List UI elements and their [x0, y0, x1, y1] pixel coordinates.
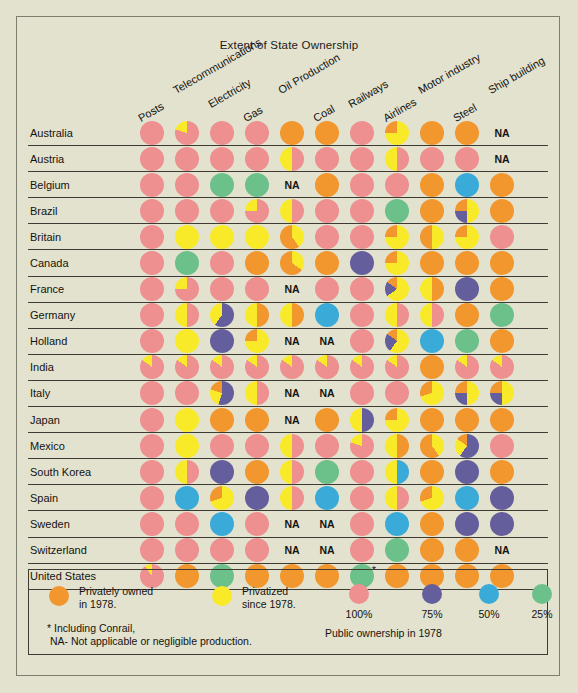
cell-oil-production: NA [279, 407, 305, 433]
cell-ship-building [489, 198, 515, 224]
row-label-australia: Australia [30, 127, 73, 139]
cell-motor-industry [419, 380, 445, 406]
ownership-pie [210, 486, 234, 510]
cell-coal: NA [314, 511, 340, 537]
ownership-pie [315, 460, 339, 484]
cell-airlines [384, 354, 410, 380]
table-row: AustriaNA [28, 146, 548, 172]
ownership-pie [385, 355, 409, 379]
ownership-pie [350, 225, 374, 249]
cell-motor-industry [419, 276, 445, 302]
ownership-pie [385, 147, 409, 171]
table-row: Britain [28, 224, 548, 250]
ownership-pie [210, 303, 234, 327]
cell-ship-building [489, 276, 515, 302]
cell-steel [454, 537, 480, 563]
ownership-pie [140, 329, 164, 353]
row-label-holland: Holland [30, 335, 67, 347]
cell-steel [454, 511, 480, 537]
cell-motor-industry [419, 198, 445, 224]
table-row: Germany [28, 303, 548, 329]
cell-railways [349, 407, 375, 433]
cell-motor-industry [419, 459, 445, 485]
ownership-pie [420, 121, 444, 145]
chart-page: Extent of State Ownership PostsTelecommu… [0, 0, 578, 693]
cell-motor-industry [419, 354, 445, 380]
cell-airlines [384, 250, 410, 276]
cell-electricity [209, 224, 235, 250]
row-label-canada: Canada [30, 257, 69, 269]
cell-gas [244, 250, 270, 276]
cell-oil-production [279, 354, 305, 380]
ownership-grid: AustraliaNAAustriaNABelgiumNABrazilBrita… [28, 120, 548, 590]
ownership-pie [420, 512, 444, 536]
row-label-spain: Spain [30, 492, 58, 504]
cell-oil-production [279, 198, 305, 224]
row-label-austria: Austria [30, 153, 64, 165]
ownership-pie [420, 199, 444, 223]
cell-telecommunications [174, 146, 200, 172]
ownership-pie [315, 408, 339, 432]
cell-coal [314, 433, 340, 459]
cell-posts [139, 380, 165, 406]
ownership-pie [455, 329, 479, 353]
cell-railways [349, 537, 375, 563]
cell-coal [314, 302, 340, 328]
legend-private-swatch [49, 586, 69, 606]
cell-motor-industry [419, 407, 445, 433]
ownership-pie [455, 303, 479, 327]
row-label-brazil: Brazil [30, 205, 58, 217]
ownership-pie [315, 225, 339, 249]
cell-electricity [209, 172, 235, 198]
ownership-pie [175, 173, 199, 197]
ownership-pie [175, 251, 199, 275]
table-row: Canada [28, 250, 548, 276]
cell-oil-production [279, 224, 305, 250]
cell-ship-building [489, 380, 515, 406]
cell-electricity [209, 250, 235, 276]
cell-motor-industry [419, 433, 445, 459]
cell-railways [349, 224, 375, 250]
na-marker: NA [284, 387, 299, 399]
ownership-pie [455, 121, 479, 145]
ownership-pie [385, 173, 409, 197]
na-marker: NA [284, 179, 299, 191]
legend-scale-caption: Public ownership in 1978 [325, 627, 442, 640]
na-marker: NA [319, 544, 334, 556]
cell-motor-industry [419, 485, 445, 511]
cell-airlines [384, 511, 410, 537]
ownership-pie [455, 434, 479, 458]
ownership-pie [140, 355, 164, 379]
table-row: SwitzerlandNANANA [28, 538, 548, 564]
cell-ship-building [489, 433, 515, 459]
ownership-pie [455, 147, 479, 171]
ownership-pie [245, 408, 269, 432]
ownership-pie [210, 329, 234, 353]
cell-posts [139, 511, 165, 537]
ownership-pie [315, 434, 339, 458]
cell-railways [349, 328, 375, 354]
cell-coal [314, 276, 340, 302]
ownership-pie [350, 277, 374, 301]
ownership-pie [210, 147, 234, 171]
ownership-pie [175, 277, 199, 301]
cell-motor-industry [419, 146, 445, 172]
cell-steel [454, 354, 480, 380]
cell-posts [139, 224, 165, 250]
cell-electricity [209, 459, 235, 485]
cell-telecommunications [174, 433, 200, 459]
cell-gas [244, 511, 270, 537]
cell-airlines [384, 433, 410, 459]
cell-railways [349, 302, 375, 328]
ownership-pie [385, 251, 409, 275]
cell-airlines [384, 198, 410, 224]
cell-motor-industry [419, 511, 445, 537]
cell-airlines [384, 146, 410, 172]
cell-electricity [209, 537, 235, 563]
ownership-pie [385, 303, 409, 327]
cell-airlines [384, 485, 410, 511]
ownership-pie [245, 486, 269, 510]
ownership-pie [455, 355, 479, 379]
ownership-pie [420, 225, 444, 249]
cell-posts [139, 459, 165, 485]
